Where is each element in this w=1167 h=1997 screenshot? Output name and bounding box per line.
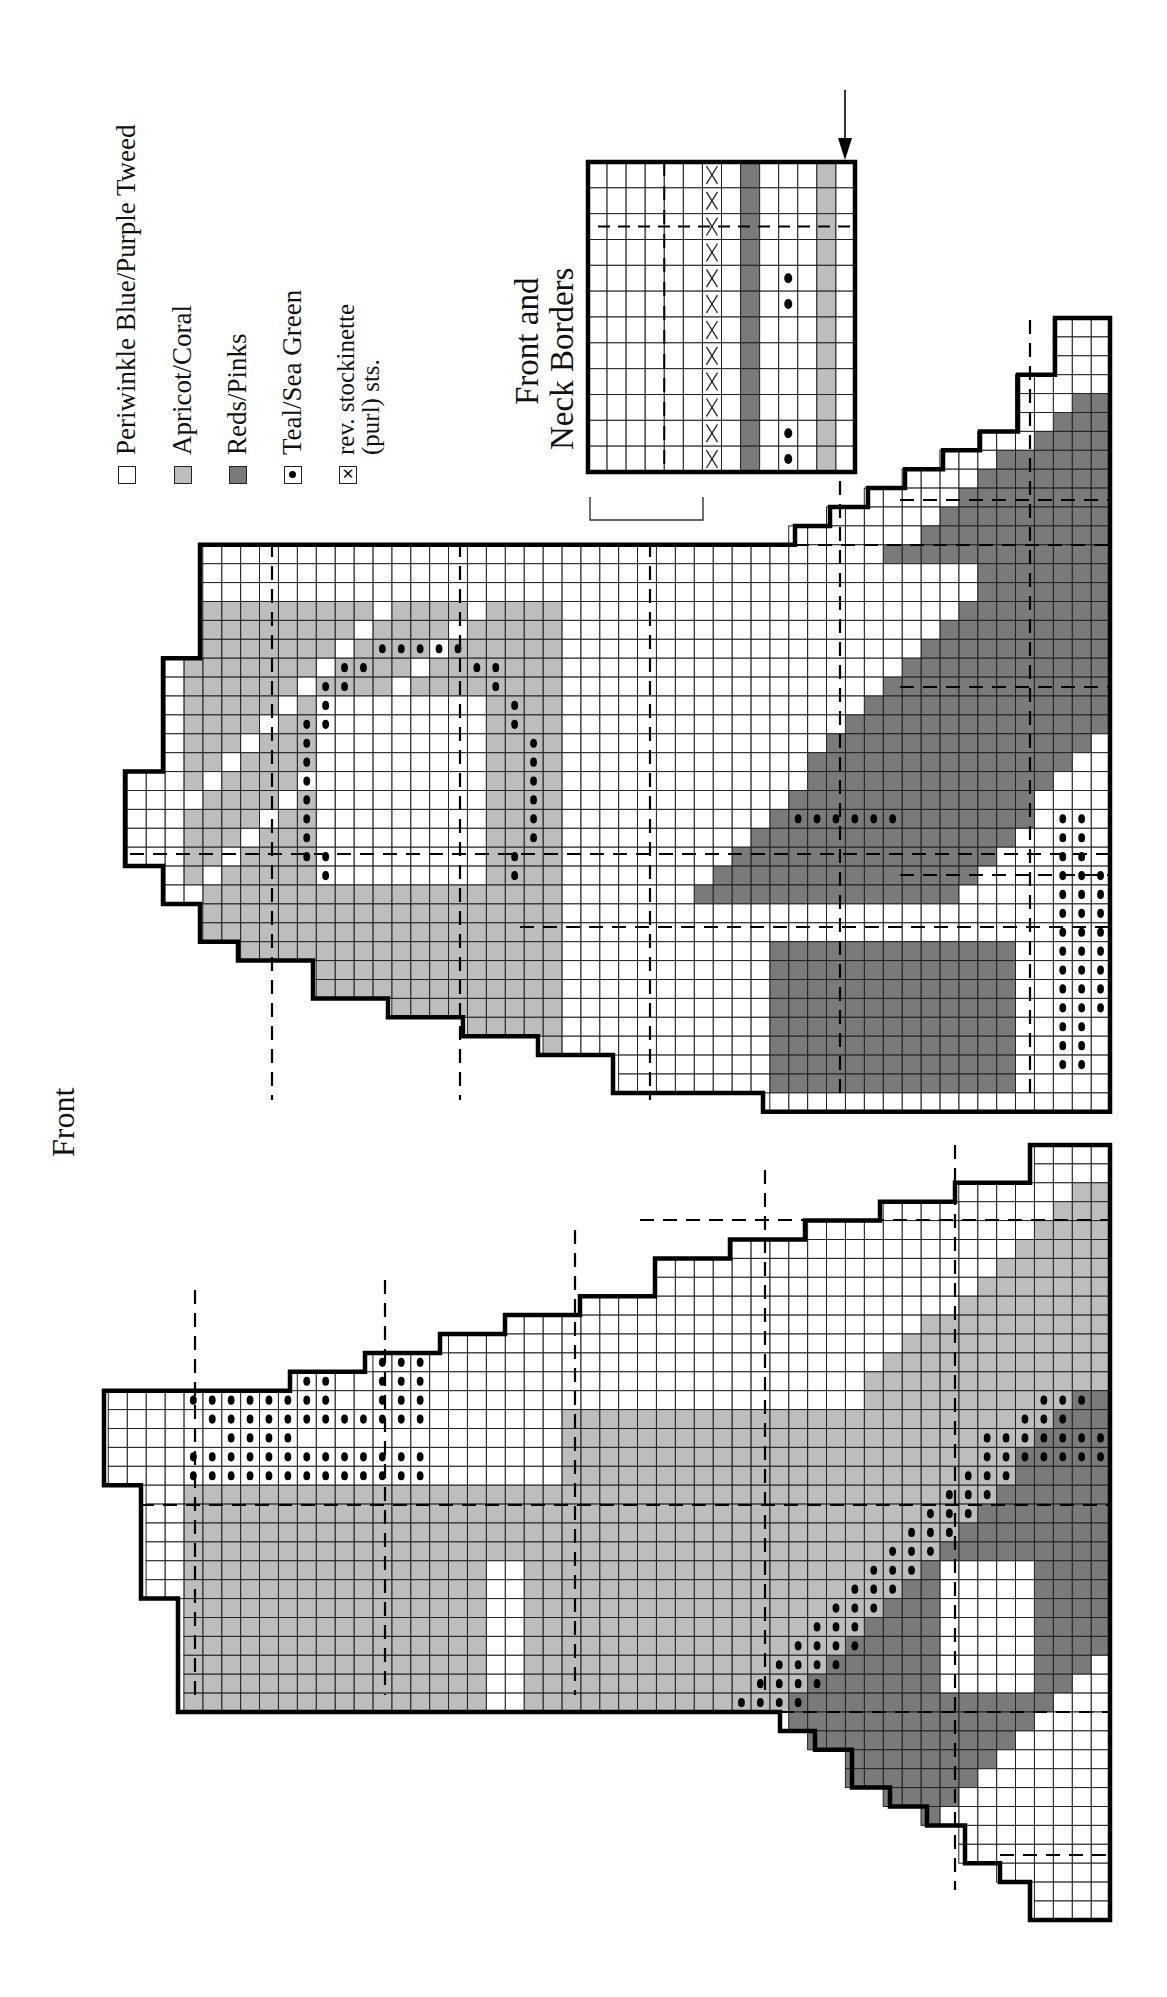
front-and-neck-borders-chart — [588, 162, 855, 472]
start-arrow-icon — [838, 90, 852, 160]
lower-front-piece — [104, 1145, 1110, 1920]
knitting-chart — [0, 0, 1167, 1997]
rolled-edge-bracket — [590, 497, 703, 520]
